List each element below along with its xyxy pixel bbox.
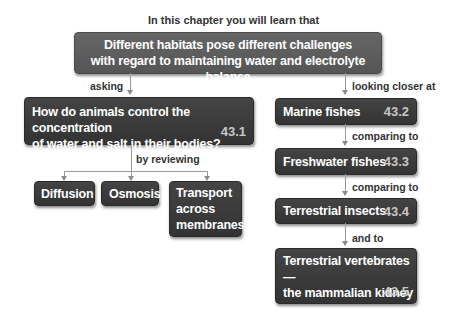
section-number: 43.3: [384, 154, 409, 169]
intro-heading: In this chapter you will learn that: [148, 14, 319, 26]
connector-by-reviewing: by reviewing: [136, 153, 200, 165]
terrestrial-vertebrates-box: Terrestrial vertebrates— the mammalian k…: [275, 248, 417, 304]
connector-asking: asking: [90, 80, 123, 92]
section-number: 43.1: [221, 124, 246, 139]
topic-label: Diffusion: [41, 186, 94, 202]
connector-line: [345, 223, 346, 243]
arrow-down-icon: [342, 241, 348, 246]
connector-line: [64, 171, 207, 172]
arrow-down-icon: [342, 191, 348, 196]
section-number: 43.5: [384, 284, 409, 299]
item-line1: Terrestrial vertebrates—: [283, 253, 416, 285]
topic-line2: across: [176, 201, 241, 217]
topic-osmosis: Osmosis: [101, 181, 159, 206]
topic-line3: membranes: [176, 217, 241, 233]
question-box: How do animals control the concentration…: [24, 97, 254, 145]
topic-label: Osmosis: [109, 186, 158, 202]
main-concept-box: Different habitats pose different challe…: [74, 32, 382, 74]
connector-looking-closer: looking closer at: [352, 80, 435, 92]
topic-diffusion: Diffusion: [34, 181, 95, 206]
section-number: 43.4: [384, 204, 409, 219]
connector-comparing: comparing to: [352, 181, 419, 193]
marine-fishes-box: Marine fishes 43.2: [275, 98, 417, 125]
arrow-down-icon: [342, 141, 348, 146]
section-number: 43.2: [384, 104, 409, 119]
connector-line: [131, 144, 132, 177]
topic-transport: Transport across membranes: [169, 181, 242, 237]
arrow-down-icon: [127, 90, 133, 95]
freshwater-fishes-box: Freshwater fishes 43.3: [275, 148, 417, 175]
main-concept-line1: Different habitats pose different challe…: [75, 37, 381, 53]
arrow-down-icon: [342, 90, 348, 95]
connector-and-to: and to: [352, 232, 384, 244]
topic-line1: Transport: [176, 185, 241, 201]
terrestrial-insects-box: Terrestrial insects 43.4: [275, 198, 417, 224]
connector-comparing: comparing to: [352, 130, 419, 142]
